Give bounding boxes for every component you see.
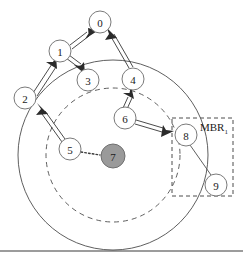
node-4-label: 4: [130, 74, 136, 86]
node-1-label: 1: [57, 46, 63, 58]
node-7-label: 7: [110, 151, 116, 163]
node-2-label: 2: [22, 93, 28, 105]
arrow-4-to-0: [105, 28, 133, 68]
edge-5-7-dotted: [81, 152, 100, 155]
node-3[interactable]: 3: [77, 69, 99, 91]
node-8[interactable]: 8: [175, 124, 197, 146]
mbr-label-subscript: 1: [224, 128, 228, 136]
node-3-label: 3: [85, 75, 91, 87]
svg-text:MBR1: MBR1: [200, 121, 228, 136]
arrow-6-to-8: [135, 120, 174, 137]
node-2[interactable]: 2: [14, 87, 36, 109]
mbr-label-text: MBR: [200, 121, 225, 133]
node-5[interactable]: 5: [59, 138, 81, 160]
node-6[interactable]: 6: [114, 107, 136, 129]
diagram-canvas: 0 1 2 3 4 5 6 7 8 9 MBR1: [0, 0, 243, 263]
node-1[interactable]: 1: [49, 40, 71, 62]
arrow-2-to-1: [33, 56, 57, 96]
arrow-5-to-2: [36, 103, 65, 142]
node-6-label: 6: [122, 113, 128, 125]
node-7-query[interactable]: 7: [101, 144, 125, 168]
node-9-label: 9: [213, 180, 219, 192]
node-0[interactable]: 0: [89, 11, 111, 33]
node-5-label: 5: [67, 144, 73, 156]
node-9[interactable]: 9: [205, 174, 227, 196]
node-4[interactable]: 4: [122, 68, 144, 90]
node-0-label: 0: [97, 17, 103, 29]
mbr-label: MBR1: [200, 121, 228, 136]
node-8-label: 8: [183, 130, 189, 142]
